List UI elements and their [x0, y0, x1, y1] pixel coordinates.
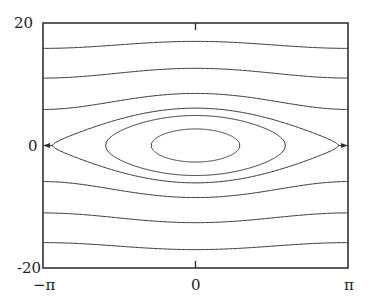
y-tick-label-top: 20 [14, 16, 33, 31]
trajectory-open-3 [43, 93, 348, 109]
trajectory-separatrix-2-upper [43, 108, 348, 145]
trajectory-open-8 [43, 243, 348, 250]
trajectory-open-7 [43, 213, 348, 223]
x-tick-label-mid: 0 [191, 278, 201, 293]
y-tick-label-bottom: -20 [17, 261, 41, 276]
x-tick-label-left: −π [33, 278, 55, 293]
trajectory-open-4 [43, 68, 348, 78]
trajectory-curves [43, 41, 348, 249]
trajectory-closed-1 [106, 115, 286, 175]
x-tick-label-right: π [344, 278, 354, 293]
y-tick-label-mid: 0 [28, 139, 38, 154]
saddle-point-marker [341, 143, 348, 148]
trajectory-open-5 [43, 41, 348, 48]
phase-portrait-plot [0, 0, 372, 304]
plot-frame [43, 23, 348, 268]
trajectory-separatrix-2-lower [43, 146, 348, 183]
trajectory-closed-0 [151, 129, 240, 162]
trajectory-open-6 [43, 182, 348, 198]
saddle-point-marker [43, 143, 50, 148]
